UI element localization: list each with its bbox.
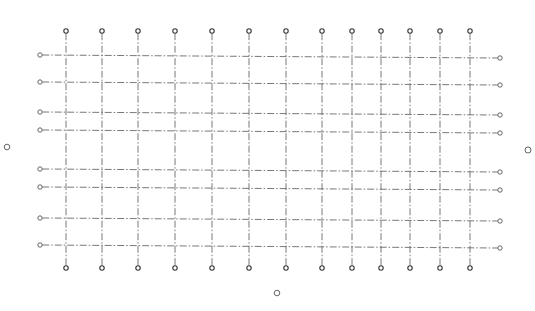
axis-bubble-bottom-icon — [284, 266, 288, 270]
axis-bubble-bottom-icon — [136, 266, 140, 270]
horizontal-axis-line — [42, 82, 498, 85]
horizontal-axis-line — [42, 55, 498, 58]
axis-bubble-top-icon — [247, 29, 251, 33]
axis-bubble-top-icon — [468, 29, 472, 33]
axis-bubble-left-icon — [38, 216, 42, 220]
axis-bubble-bottom-icon — [100, 266, 104, 270]
axis-bubble-bottom-icon — [468, 266, 472, 270]
axis-bubble-bottom-icon — [64, 266, 68, 270]
axis-bubble-top-icon — [173, 29, 177, 33]
axis-bubble-right-icon — [498, 170, 502, 174]
axis-bubble-top-icon — [320, 29, 324, 33]
axis-grid-diagram — [0, 0, 535, 311]
axis-bubble-bottom-icon — [210, 266, 214, 270]
axis-bubble-left-icon — [38, 80, 42, 84]
horizontal-axis-line — [42, 130, 498, 133]
axis-bubble-bottom-icon — [247, 266, 251, 270]
axis-bubble-right-icon — [498, 83, 502, 87]
axis-bubble-left-icon — [38, 167, 42, 171]
axis-bubble-left-icon — [38, 110, 42, 114]
bottom-marker-circle-icon — [274, 290, 280, 296]
axis-bubble-left-icon — [38, 128, 42, 132]
vertical-grid-lines — [66, 33, 470, 266]
axis-bubble-right-icon — [498, 56, 502, 60]
axis-bubble-bottom-icon — [408, 266, 412, 270]
axis-bubble-bottom-icon — [350, 266, 354, 270]
axis-bubble-top-icon — [350, 29, 354, 33]
axis-bubble-top-icon — [284, 29, 288, 33]
left-marker-circle-icon — [4, 144, 10, 150]
axis-bubble-bottom-icon — [173, 266, 177, 270]
axis-bubble-bottom-icon — [379, 266, 383, 270]
horizontal-axis-line — [42, 218, 498, 221]
axis-bubble-top-icon — [438, 29, 442, 33]
horizontal-axis-line — [42, 245, 498, 248]
axis-bubble-top-icon — [408, 29, 412, 33]
isolated-markers — [4, 144, 531, 296]
axis-bubble-top-icon — [100, 29, 104, 33]
axis-bubble-right-icon — [498, 246, 502, 250]
axis-bubble-top-icon — [136, 29, 140, 33]
axis-bubble-bottom-icon — [320, 266, 324, 270]
axis-bubble-right-icon — [498, 131, 502, 135]
axis-bubble-right-icon — [498, 219, 502, 223]
axis-bubble-right-icon — [498, 188, 502, 192]
axis-bubble-right-icon — [498, 113, 502, 117]
axis-bubble-bottom-icon — [438, 266, 442, 270]
right-marker-circle-icon — [525, 147, 531, 153]
horizontal-axis-line — [42, 169, 498, 172]
vertical-axis-bubbles — [64, 29, 472, 270]
horizontal-grid-lines — [42, 55, 498, 248]
axis-bubble-top-icon — [210, 29, 214, 33]
axis-bubble-left-icon — [38, 185, 42, 189]
axis-bubble-left-icon — [38, 243, 42, 247]
axis-bubble-top-icon — [379, 29, 383, 33]
axis-bubble-left-icon — [38, 53, 42, 57]
axis-bubble-top-icon — [64, 29, 68, 33]
horizontal-axis-line — [42, 187, 498, 190]
horizontal-axis-line — [42, 112, 498, 115]
